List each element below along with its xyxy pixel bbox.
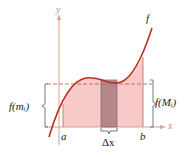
a-label: a <box>61 131 67 142</box>
riemann-diagram: y x f a b Δx f(mᵢ) f(Mᵢ) <box>0 0 193 157</box>
delta-x-bracket <box>101 128 117 134</box>
delta-x-label: Δx <box>102 137 115 148</box>
min-value-label: f(mᵢ) <box>9 101 29 112</box>
subinterval-rect <box>101 80 117 127</box>
diagram-canvas <box>0 0 193 157</box>
b-label: b <box>140 131 146 142</box>
left-bracket <box>42 84 48 127</box>
y-axis-label: y <box>56 5 60 15</box>
max-value-label: f(Mᵢ) <box>155 97 176 108</box>
function-label: f <box>146 13 149 24</box>
x-axis-label: x <box>168 121 172 131</box>
x-axis-arrow <box>160 125 166 129</box>
